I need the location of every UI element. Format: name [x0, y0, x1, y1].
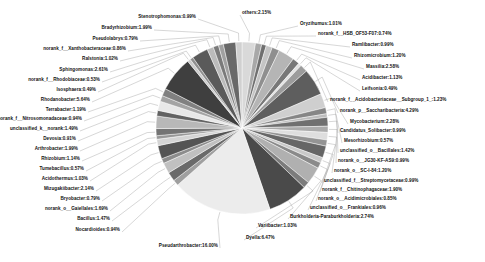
label-leader-line	[88, 88, 163, 112]
slice-label-arthrobacter: Arthrobacter:1.99%	[35, 147, 78, 152]
slice-label-rhizobium: Rhizobium:1.14%	[41, 157, 80, 162]
label-leader-line	[329, 129, 337, 163]
slice-label-norank-f-rhodobiaceae: norank_f__Rhodobiaceae:0.53%	[28, 78, 100, 83]
slice-label-sphingomonas: Sphingomonas:2.61%	[59, 68, 108, 73]
slice-label-oryzihumus: Oryzihumus:1.01%	[300, 22, 342, 27]
label-leader-line	[84, 95, 160, 121]
slice-label-norank-o-sc-i-84: norank_o__SC-I-84:1.20%	[334, 169, 391, 174]
slice-label-ramlibacter: Ramlibacter:0.99%	[352, 43, 394, 48]
slice-label-mycobacterium: Mycobacterium:2.28%	[350, 120, 399, 125]
slice-label-norank-f-xanthobacteraceae: norank_f__Xanthobacteraceae:0.86%	[43, 47, 126, 52]
slice-label-unclassified-o-bacillales: unclassified_o__Bacillales:1.42%	[340, 149, 414, 154]
slice-label-devosia: Devosia:0.91%	[43, 137, 76, 142]
slice-label-others: others:2.15%	[242, 11, 271, 16]
label-leader-line	[86, 138, 156, 171]
slice-label-burkholderia-paraburkholderia: Burkholderia-Paraburkholderia:2.74%	[290, 215, 374, 220]
pie-slices	[156, 42, 328, 214]
slice-label-pseudarthrobacter: Pseudarthrobacter:16.00%	[159, 244, 218, 249]
slice-label-pseudolabrys: Pseudolabrys:0.79%	[92, 37, 138, 42]
slice-label-acidibacter: Acidibacter:1.13%	[362, 76, 402, 81]
slice-label-bacillus: Bacillus:1.47%	[77, 217, 110, 222]
slice-label-leifsonia: Leifsonia:0.49%	[362, 87, 397, 92]
label-leader-line	[80, 122, 155, 151]
slice-label-tumebacillus: Tumebacillus:0.57%	[40, 167, 84, 172]
label-leader-line	[80, 103, 158, 131]
slice-label-norank-o-acidimicrobiales: norank_o__Acidimicrobiales:0.85%	[318, 197, 397, 202]
slice-label-norank-o-jg30-kf-as9: norank_o__JG30-KF-AS9:0.99%	[338, 159, 409, 164]
label-leader-line	[90, 143, 156, 181]
slice-label-nocardioides: Nocardioides:0.94%	[75, 228, 120, 233]
label-leader-line	[128, 38, 216, 52]
slice-label-mizugakiibacter: Mizugakiibacter:2.14%	[44, 187, 94, 192]
slice-label-stenotrophomonas: Stenotrophomonas:0.99%	[138, 15, 196, 20]
slice-label-rhizomicrobium: Rhizomicrobium:1.20%	[354, 54, 406, 59]
slice-label-massilia: Massilia:2.58%	[366, 65, 399, 70]
slice-label-variibacter: Variibacter:1.03%	[258, 224, 297, 229]
label-leader-line	[240, 15, 250, 41]
slice-label-isosphaera: Isosphaera:0.49%	[56, 88, 96, 93]
slice-label-terrabacter: Terrabacter:1.19%	[46, 108, 86, 113]
slice-label-norank-o-gaiellales: norank_o__Gaiellales:1.69%	[45, 207, 108, 212]
label-leader-line	[122, 183, 175, 232]
slice-label-norank-f-chitinophagaceae: norank_f__Chitinophagaceae:1.90%	[322, 188, 402, 193]
slice-label-dyella: Dyella:6.47%	[246, 236, 275, 241]
slice-label-norank-f-nitrosomonadaceae: norank_f__Nitrosomonadaceae:0.94%	[0, 117, 82, 122]
slice-label-rhodanobacter: Rhodanobacter:5.64%	[41, 98, 90, 103]
label-leader-line	[198, 19, 239, 41]
slice-label-bryobacter: Bryobacter:0.79%	[60, 197, 100, 202]
label-leader-line	[270, 38, 350, 47]
slice-label-norank-p-saccharibacteria: norank_p__Saccharibacteria:4.29%	[340, 109, 419, 114]
slice-label-unclassified-o-frankiales: unclassified_o__Frankiales:0.96%	[310, 206, 386, 211]
label-leader-line	[78, 112, 156, 141]
slice-label-ralstonia: Ralstonia:1.02%	[82, 57, 118, 62]
label-leader-line	[96, 153, 159, 191]
slice-label-unclassified-k-norank: unclassified_k__norank:1.49%	[10, 127, 78, 132]
slice-label-mesorhizobium: Mesorhizobium:0.57%	[344, 139, 393, 144]
slice-label-candidatus-solibacter: Candidatus_Solibacter:0.99%	[340, 129, 406, 134]
slice-label-acidothermus: Acidothermus:1.03%	[42, 177, 88, 182]
slice-label-norank-f-hsb-of53-f07: norank_f__HSB_OF53-F07:0.74%	[318, 32, 392, 37]
slice-label-bradyrhizobium: Bradyrhizobium:1.99%	[101, 26, 152, 31]
label-leader-line	[218, 212, 220, 248]
slice-label-unclassified-f-streptomycetaceae: unclassified_f__Streptomycetaceae:0.99%	[324, 179, 418, 184]
pie-chart-figure: others:2.15%Oryzihumus:1.01%norank_f__HS…	[0, 0, 485, 262]
slice-label-norank-f-acidobacteriaceae-subgroup-1: norank_f__Acidobacteriaceae__Subgroup_1_…	[330, 98, 446, 103]
